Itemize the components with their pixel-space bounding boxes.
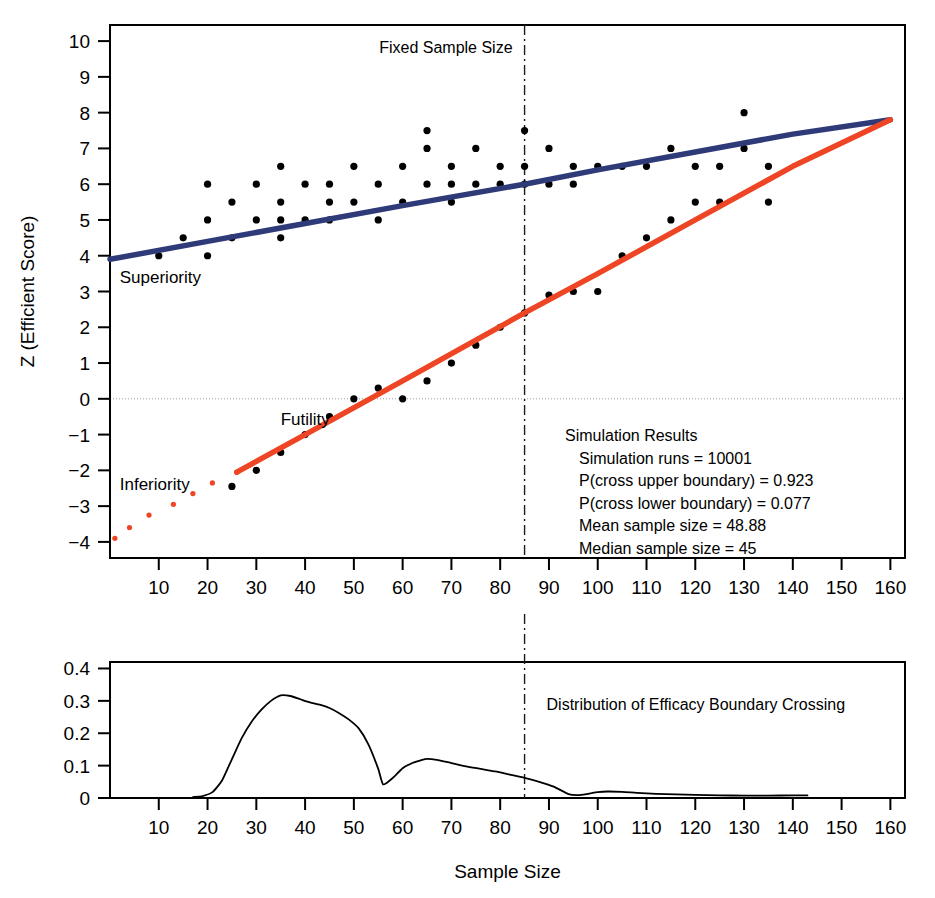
scatter-point bbox=[375, 181, 382, 188]
x-tick-label: 10 bbox=[148, 817, 169, 838]
futility-boundary-line bbox=[237, 120, 891, 472]
y-tick-label: 9 bbox=[79, 67, 90, 88]
simulation-results-block: Simulation ResultsSimulation runs = 1000… bbox=[565, 427, 813, 557]
figure-root: Z (Efficient Score)−4−3−2−10123456789101… bbox=[0, 0, 935, 898]
scatter-point bbox=[643, 234, 650, 241]
scatter-point bbox=[740, 109, 747, 116]
x-tick-label: 120 bbox=[679, 577, 711, 598]
scatter-point bbox=[472, 145, 479, 152]
simulation-results-line: P(cross upper boundary) = 0.923 bbox=[579, 472, 813, 489]
scatter-point bbox=[326, 181, 333, 188]
scatter-point bbox=[228, 198, 235, 205]
scatter-point bbox=[448, 181, 455, 188]
simulation-results-line: Mean sample size = 48.88 bbox=[579, 517, 766, 534]
x-tick-label: 50 bbox=[343, 817, 364, 838]
inferiority-point bbox=[210, 480, 215, 485]
scatter-point bbox=[423, 181, 430, 188]
y-tick-label: 0 bbox=[79, 389, 90, 410]
scatter-point bbox=[765, 163, 772, 170]
scatter-point bbox=[472, 181, 479, 188]
figure-canvas: Z (Efficient Score)−4−3−2−10123456789101… bbox=[0, 0, 935, 898]
main-x-axis: 102030405060708090100110120130140150160 bbox=[148, 558, 906, 598]
bottom-panel: Distribution of Efficacy Boundary Crossi… bbox=[110, 614, 905, 882]
scatter-point bbox=[521, 163, 528, 170]
x-tick-label: 40 bbox=[295, 817, 316, 838]
scatter-point bbox=[716, 163, 723, 170]
y-tick-label: 0.3 bbox=[64, 691, 90, 712]
scatter-point bbox=[204, 252, 211, 259]
scatter-point bbox=[545, 145, 552, 152]
x-tick-label: 50 bbox=[343, 577, 364, 598]
x-axis-title: Sample Size bbox=[454, 861, 561, 882]
scatter-point bbox=[204, 181, 211, 188]
y-tick-label: −1 bbox=[68, 425, 90, 446]
simulation-results-line: Median sample size = 45 bbox=[579, 540, 757, 557]
y-tick-label: 4 bbox=[79, 246, 90, 267]
y-tick-label: 0.2 bbox=[64, 723, 90, 744]
scatter-point bbox=[570, 181, 577, 188]
scatter-point bbox=[692, 198, 699, 205]
futility-label: Futility bbox=[281, 410, 331, 429]
y-tick-label: 7 bbox=[79, 138, 90, 159]
bottom-panel-title: Distribution of Efficacy Boundary Crossi… bbox=[547, 696, 846, 713]
scatter-point bbox=[423, 145, 430, 152]
scatter-point bbox=[667, 145, 674, 152]
bottom-plot-frame bbox=[110, 662, 905, 798]
x-tick-label: 70 bbox=[441, 817, 462, 838]
x-tick-label: 150 bbox=[826, 817, 858, 838]
y-tick-label: 6 bbox=[79, 174, 90, 195]
plot-svg: Z (Efficient Score)−4−3−2−10123456789101… bbox=[0, 0, 935, 898]
scatter-point bbox=[253, 467, 260, 474]
x-tick-label: 30 bbox=[246, 817, 267, 838]
y-tick-label: 0 bbox=[79, 788, 90, 809]
scatter-point bbox=[399, 395, 406, 402]
scatter-point bbox=[399, 163, 406, 170]
x-tick-label: 60 bbox=[392, 817, 413, 838]
x-tick-label: 150 bbox=[826, 577, 858, 598]
scatter-point bbox=[765, 198, 772, 205]
simulation-results-line: P(cross lower boundary) = 0.077 bbox=[579, 495, 811, 512]
y-tick-label: −2 bbox=[68, 460, 90, 481]
x-tick-label: 30 bbox=[246, 577, 267, 598]
scatter-point bbox=[350, 198, 357, 205]
scatter-point bbox=[423, 127, 430, 134]
y-tick-label: 5 bbox=[79, 210, 90, 231]
x-tick-label: 20 bbox=[197, 577, 218, 598]
scatter-point bbox=[594, 288, 601, 295]
scatter-point bbox=[570, 163, 577, 170]
scatter-point bbox=[277, 216, 284, 223]
y-tick-label: 0.1 bbox=[64, 756, 90, 777]
scatter-point bbox=[301, 181, 308, 188]
x-tick-label: 20 bbox=[197, 817, 218, 838]
inferiority-point bbox=[146, 512, 151, 517]
inferiority-point bbox=[112, 536, 117, 541]
y-tick-label: 10 bbox=[69, 31, 90, 52]
y-tick-label: 0.4 bbox=[64, 658, 91, 679]
fixed-sample-size-label: Fixed Sample Size bbox=[379, 39, 512, 56]
inferiority-point bbox=[171, 502, 176, 507]
y-axis-title: Z (Efficient Score) bbox=[17, 216, 38, 368]
simulation-results-line: Simulation runs = 10001 bbox=[579, 450, 752, 467]
scatter-point bbox=[448, 163, 455, 170]
boundary-lines bbox=[110, 120, 890, 472]
y-tick-label: 1 bbox=[79, 353, 90, 374]
scatter-point bbox=[448, 359, 455, 366]
x-tick-label: 40 bbox=[295, 577, 316, 598]
scatter-point bbox=[228, 483, 235, 490]
x-tick-label: 100 bbox=[582, 577, 614, 598]
x-tick-label: 100 bbox=[582, 817, 614, 838]
x-tick-label: 10 bbox=[148, 577, 169, 598]
x-tick-label: 110 bbox=[631, 817, 661, 838]
x-tick-label: 120 bbox=[679, 817, 711, 838]
y-tick-label: −3 bbox=[68, 496, 90, 517]
y-tick-label: 3 bbox=[79, 282, 90, 303]
main-y-axis: −4−3−2−1012345678910 bbox=[68, 31, 110, 553]
inferiority-point bbox=[190, 491, 195, 496]
x-tick-label: 140 bbox=[777, 577, 809, 598]
scatter-point bbox=[692, 163, 699, 170]
region-labels: SuperiorityFutilityInferiorityFixed Samp… bbox=[120, 39, 513, 494]
x-tick-label: 70 bbox=[441, 577, 462, 598]
scatter-point bbox=[521, 127, 528, 134]
y-tick-label: 8 bbox=[79, 103, 90, 124]
simulation-results-title: Simulation Results bbox=[565, 427, 698, 444]
